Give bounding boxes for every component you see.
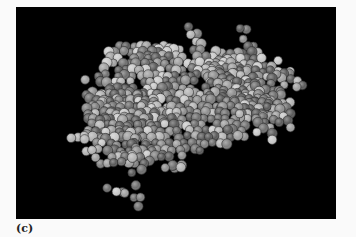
atom-sphere-highlight (157, 153, 165, 161)
atom-sphere-highlight (208, 139, 216, 147)
atom-sphere-highlight (81, 75, 90, 84)
atom-sphere-highlight (164, 152, 174, 162)
atom-sphere-highlight (236, 24, 244, 32)
atom-sphere-highlight (222, 139, 232, 149)
atom-sphere-highlight (131, 181, 141, 191)
atom-sphere-highlight (91, 153, 100, 162)
atom-sphere-highlight (292, 83, 301, 92)
atom-sphere-highlight (136, 193, 145, 202)
atom-sphere-highlight (253, 128, 261, 136)
atom-sphere-highlight (180, 75, 190, 85)
atom-sphere-highlight (286, 123, 295, 132)
atom-sphere-highlight (120, 189, 129, 198)
atom-sphere-highlight (134, 202, 143, 211)
atom-sphere-highlight (110, 159, 118, 167)
atom-sphere-highlight (190, 76, 199, 85)
figure-label: (c) (16, 222, 33, 235)
atom-sphere-highlight (128, 169, 136, 177)
atom-sphere-highlight (117, 158, 125, 166)
atom-sphere-highlight (80, 135, 89, 144)
atom-sphere-highlight (127, 153, 137, 163)
atom-sphere-highlight (236, 110, 244, 118)
atom-sphere-highlight (196, 147, 204, 155)
atom-sphere-highlight (161, 120, 169, 128)
atom-sphere-highlight (233, 131, 243, 141)
atom-sphere-highlight (137, 165, 147, 175)
atom-sphere-highlight (178, 151, 187, 160)
atom-sphere-highlight (112, 187, 121, 196)
atom-sphere-highlight (268, 135, 277, 144)
atom-sphere-highlight (257, 53, 267, 63)
atom-sphere-highlight (67, 133, 76, 142)
atom-sphere-highlight (176, 162, 186, 172)
space-filling-protein-model (16, 7, 336, 219)
atom-sphere-highlight (186, 30, 195, 39)
atom-sphere-highlight (103, 184, 112, 193)
atom-sphere-highlight (184, 22, 193, 31)
molecule-figure-panel (16, 7, 336, 219)
atom-sphere-highlight (161, 164, 169, 172)
atom-spheres (67, 22, 307, 211)
atom-sphere-highlight (275, 118, 284, 127)
